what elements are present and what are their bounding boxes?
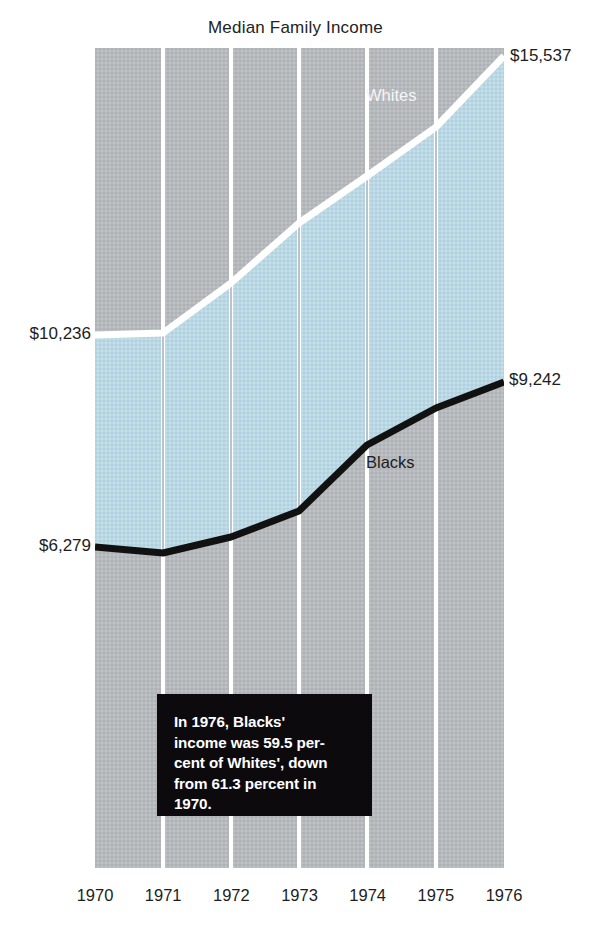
median-family-income-chart: Median Family Income — [0, 0, 591, 936]
blacks-start-value-label: $6,279 — [39, 536, 91, 556]
x-tick-label: 1973 — [281, 886, 318, 905]
blacks-end-value-label: $9,242 — [509, 370, 561, 390]
x-tick-label: 1971 — [145, 886, 182, 905]
whites-end-value-label: $15,537 — [510, 46, 571, 66]
x-tick-label: 1970 — [77, 886, 114, 905]
annotation-callout-box: In 1976, Blacks' income was 59.5 per- ce… — [157, 694, 372, 816]
whites-start-value-label: $10,236 — [30, 324, 91, 344]
series-label-blacks: Blacks — [366, 453, 415, 472]
x-axis-tick-labels: 1970197119721973197419751976 — [95, 886, 504, 914]
chart-title: Median Family Income — [0, 18, 591, 38]
x-tick-label: 1975 — [417, 886, 454, 905]
x-tick-label: 1972 — [213, 886, 250, 905]
x-tick-label: 1976 — [486, 886, 523, 905]
series-label-whites: Whites — [366, 86, 416, 105]
x-tick-label: 1974 — [349, 886, 386, 905]
annotation-text: In 1976, Blacks' income was 59.5 per- ce… — [174, 712, 356, 815]
